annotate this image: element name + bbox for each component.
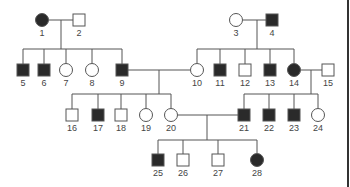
individual-14: 14 — [288, 64, 301, 89]
individual-23: 23 — [288, 109, 300, 133]
individual-19: 19 — [140, 109, 153, 134]
individual-8: 8 — [86, 64, 99, 89]
affected-female-circle-icon — [36, 14, 49, 27]
unaffected-male-square-icon — [66, 109, 78, 121]
individual-label: 7 — [63, 78, 68, 88]
individual-28: 28 — [251, 154, 264, 179]
individual-label: 12 — [240, 78, 250, 88]
unaffected-male-square-icon — [177, 154, 189, 166]
individual-16: 16 — [66, 109, 78, 133]
individuals: 1234567891011121314151617181920212223242… — [17, 14, 334, 179]
affected-male-square-icon — [38, 64, 50, 76]
individual-25: 25 — [152, 154, 164, 178]
affected-female-circle-icon — [288, 64, 301, 77]
affected-male-square-icon — [92, 109, 104, 121]
individual-label: 28 — [252, 168, 262, 178]
individual-10: 10 — [191, 64, 204, 89]
individual-label: 15 — [323, 78, 333, 88]
individual-label: 8 — [89, 78, 94, 88]
unaffected-female-circle-icon — [60, 64, 73, 77]
individual-label: 10 — [192, 78, 202, 88]
individual-7: 7 — [60, 64, 73, 89]
unaffected-male-square-icon — [212, 154, 224, 166]
individual-2: 2 — [73, 14, 85, 38]
affected-male-square-icon — [116, 64, 128, 76]
individual-label: 11 — [215, 78, 224, 88]
individual-1: 1 — [36, 14, 49, 39]
individual-label: 27 — [213, 168, 223, 178]
affected-male-square-icon — [288, 109, 300, 121]
unaffected-male-square-icon — [73, 14, 85, 26]
affected-male-square-icon — [264, 64, 276, 76]
unaffected-female-circle-icon — [312, 109, 325, 122]
affected-female-circle-icon — [251, 154, 264, 167]
unaffected-female-circle-icon — [191, 64, 204, 77]
individual-label: 18 — [116, 123, 126, 133]
individual-label: 5 — [20, 78, 25, 88]
individual-label: 20 — [166, 123, 176, 133]
individual-13: 13 — [264, 64, 276, 88]
affected-male-square-icon — [17, 64, 29, 76]
unaffected-female-circle-icon — [140, 109, 153, 122]
unaffected-female-circle-icon — [230, 14, 243, 27]
individual-22: 22 — [263, 109, 275, 133]
affected-male-square-icon — [266, 14, 278, 26]
pedigree-diagram: 1234567891011121314151617181920212223242… — [0, 0, 350, 187]
unaffected-female-circle-icon — [86, 64, 99, 77]
individual-label: 13 — [265, 78, 275, 88]
individual-label: 14 — [289, 78, 299, 88]
individual-3: 3 — [230, 14, 243, 39]
individual-label: 21 — [239, 123, 249, 133]
individual-label: 3 — [233, 28, 238, 38]
individual-label: 17 — [93, 123, 103, 133]
unaffected-male-square-icon — [115, 109, 127, 121]
individual-label: 19 — [141, 123, 151, 133]
individual-5: 5 — [17, 64, 29, 88]
individual-26: 26 — [177, 154, 189, 178]
individual-20: 20 — [165, 109, 178, 134]
unaffected-female-circle-icon — [165, 109, 178, 122]
individual-15: 15 — [322, 64, 334, 88]
individual-label: 25 — [153, 168, 163, 178]
affected-male-square-icon — [263, 109, 275, 121]
individual-24: 24 — [312, 109, 325, 134]
individual-17: 17 — [92, 109, 104, 133]
individual-label: 23 — [289, 123, 299, 133]
individual-label: 26 — [178, 168, 188, 178]
individual-21: 21 — [238, 109, 250, 133]
individual-label: 6 — [41, 78, 46, 88]
affected-male-square-icon — [238, 109, 250, 121]
individual-12: 12 — [239, 64, 251, 88]
individual-label: 22 — [264, 123, 274, 133]
unaffected-male-square-icon — [239, 64, 251, 76]
individual-label: 4 — [269, 28, 274, 38]
affected-male-square-icon — [152, 154, 164, 166]
individual-label: 24 — [313, 123, 323, 133]
affected-male-square-icon — [214, 64, 226, 76]
individual-4: 4 — [266, 14, 278, 38]
individual-6: 6 — [38, 64, 50, 88]
individual-27: 27 — [212, 154, 224, 178]
individual-label: 2 — [76, 28, 81, 38]
individual-11: 11 — [214, 64, 226, 88]
individual-label: 9 — [119, 78, 124, 88]
individual-label: 1 — [39, 28, 44, 38]
individual-label: 16 — [67, 123, 77, 133]
individual-9: 9 — [116, 64, 128, 88]
individual-18: 18 — [115, 109, 127, 133]
unaffected-male-square-icon — [322, 64, 334, 76]
